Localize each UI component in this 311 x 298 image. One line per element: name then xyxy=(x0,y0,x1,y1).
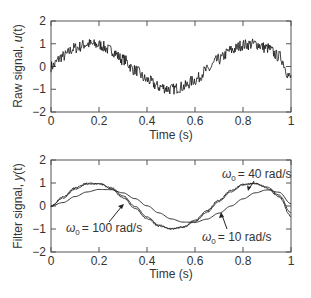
annotation-10: ω0= 10 rad/s xyxy=(202,230,272,246)
raw-signal-plot: 00.20.40.60.81210−1−2 Time (s) Raw signa… xyxy=(11,14,295,142)
axis-ticks: 00.20.40.60.81210−1−2 xyxy=(32,14,294,128)
x-tick-label: 1 xyxy=(288,254,295,268)
x-tick-label: 0.6 xyxy=(187,254,204,268)
figure: 00.20.40.60.81210−1−2 Time (s) Raw signa… xyxy=(0,0,311,298)
y-axis-label: Filter signal, y(t) xyxy=(11,163,25,248)
arrow-100 xyxy=(109,206,122,222)
y-tick-label: 2 xyxy=(39,14,46,28)
x-axis-label: Time (s) xyxy=(149,267,193,281)
x-tick-label: 0.8 xyxy=(235,254,252,268)
x-tick-label: 0.2 xyxy=(91,114,108,128)
y-tick-label: 0 xyxy=(39,60,46,74)
y-tick-label: −2 xyxy=(32,105,46,119)
y-tick-label: −1 xyxy=(32,222,46,236)
x-tick-label: 0 xyxy=(48,114,55,128)
plot-frame xyxy=(51,21,291,112)
y-tick-label: −2 xyxy=(32,245,46,259)
x-tick-label: 0.4 xyxy=(139,254,156,268)
annotation-40: ω0= 40 rad/s xyxy=(222,167,292,183)
filter-signal-plot: 00.20.40.60.81210−1−2 ω0= 40 rad/s ω0= 1… xyxy=(11,153,295,281)
filter-10-line xyxy=(51,189,291,222)
y-tick-label: 0 xyxy=(39,199,46,213)
y-tick-label: −1 xyxy=(32,82,46,96)
x-tick-label: 0.2 xyxy=(91,254,108,268)
y-tick-label: 1 xyxy=(39,37,46,51)
x-tick-label: 0.4 xyxy=(139,114,156,128)
x-tick-label: 0.8 xyxy=(235,114,252,128)
y-tick-label: 1 xyxy=(39,176,46,190)
annotation-100: ω0= 100 rad/s xyxy=(66,221,142,237)
x-tick-label: 0.6 xyxy=(187,114,204,128)
arrowhead-icon xyxy=(118,204,124,209)
x-axis-label: Time (s) xyxy=(149,128,193,142)
y-axis-label: Raw signal, u(t) xyxy=(11,24,25,107)
x-tick-label: 1 xyxy=(288,114,295,128)
raw-signal-line xyxy=(51,39,291,94)
x-tick-label: 0 xyxy=(48,254,55,268)
y-tick-label: 2 xyxy=(39,153,46,167)
